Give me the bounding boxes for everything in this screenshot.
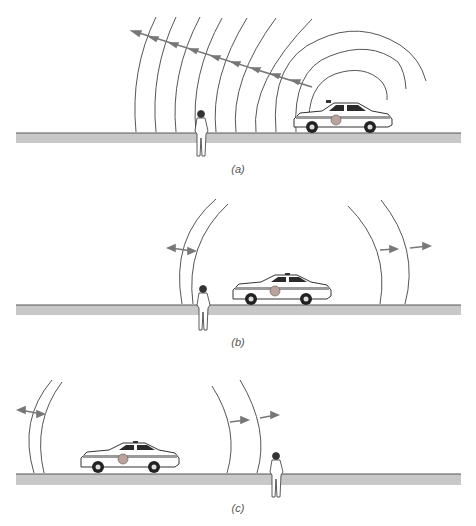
wave-direction-arrows: [132, 31, 312, 87]
police-car: [233, 273, 331, 305]
panel-a-illustration: [0, 0, 476, 178]
wave-direction-arrows: [18, 407, 278, 423]
observer-figure: [197, 286, 210, 331]
police-car: [294, 100, 392, 133]
observer-figure: [195, 111, 208, 157]
panel-a: (a): [0, 0, 476, 178]
ground-strip: [16, 474, 461, 485]
panel-caption-c: (c): [0, 502, 476, 514]
observer-figure: [270, 453, 283, 498]
panel-c-illustration: [0, 350, 476, 526]
panel-c: (c): [0, 350, 476, 526]
wave-direction-arrows: [168, 243, 430, 254]
ground-strip: [16, 305, 461, 315]
police-car: [81, 441, 179, 473]
panel-caption-a: (a): [0, 163, 476, 175]
panel-b: (b): [0, 178, 476, 350]
panel-caption-b: (b): [0, 336, 476, 348]
ground-strip: [16, 133, 461, 143]
panel-b-illustration: [0, 178, 476, 350]
